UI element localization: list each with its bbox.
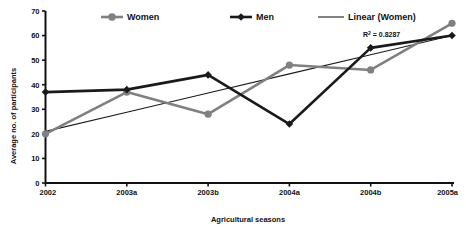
- y-axis-title: Average no. of participants: [9, 68, 18, 164]
- legend-item-label: Linear (Women): [348, 12, 416, 22]
- data-point-marker: [108, 13, 116, 21]
- x-axis-tick-label: 2005a: [437, 188, 459, 197]
- line-chart: 010203040506070 20022003a2003b2004a2004b…: [0, 0, 466, 229]
- data-point-marker: [448, 20, 455, 27]
- x-axis-tick-label: 2004b: [360, 188, 382, 197]
- y-axis-tick-label: 60: [31, 31, 39, 40]
- y-axis-tick-label: 70: [31, 7, 39, 16]
- y-axis-tick-label: 50: [31, 56, 39, 65]
- y-axis-tick-label: 10: [31, 154, 39, 163]
- x-axis-tick-label: 2002: [40, 188, 57, 197]
- chart-legend: WomenMenLinear (Women): [101, 12, 416, 22]
- legend-item-label: Men: [256, 12, 274, 22]
- chart-container: 010203040506070 20022003a2003b2004a2004b…: [0, 0, 466, 229]
- data-point-marker: [286, 61, 293, 68]
- y-axis-tick-label: 0: [35, 179, 39, 188]
- data-point-marker: [42, 130, 49, 137]
- x-axis-title: Agricultural seasons: [211, 215, 285, 224]
- legend-item-label: Women: [127, 12, 159, 22]
- x-axis-tick-label: 2003b: [197, 188, 219, 197]
- y-axis-tick-label: 40: [31, 81, 39, 90]
- x-axis-tick-label: 2004a: [279, 188, 301, 197]
- x-axis-tick-label: 2003a: [116, 188, 138, 197]
- data-point-marker: [205, 111, 212, 118]
- data-point-marker: [367, 66, 374, 73]
- y-axis-tick-label: 30: [31, 105, 39, 114]
- y-axis-tick-label: 20: [31, 130, 39, 139]
